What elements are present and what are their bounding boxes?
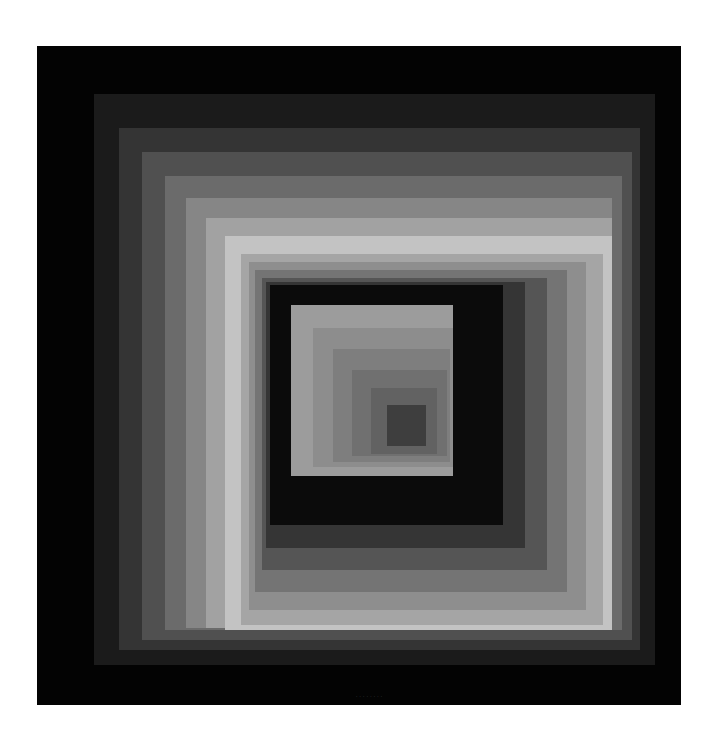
- inner-square-6: [387, 405, 426, 446]
- artwork-canvas: · · · · · · · ·: [0, 0, 715, 750]
- artist-signature: · · · · · · · ·: [356, 694, 383, 699]
